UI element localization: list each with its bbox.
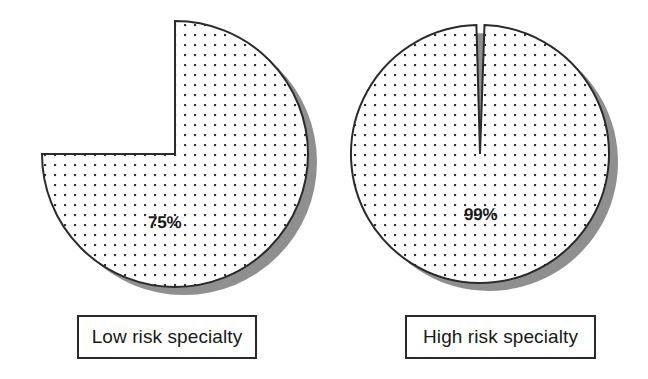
pie-low-risk-slice xyxy=(42,21,308,287)
pie-high-risk-percent-label: 99% xyxy=(464,206,497,223)
pie-low-risk xyxy=(42,21,317,295)
pie-chart-figure: 75% 99% Low risk specialty High risk spe… xyxy=(0,0,648,379)
caption-label-high-risk: High risk specialty xyxy=(423,326,578,348)
pie-low-risk-percent-label: 75% xyxy=(148,214,181,231)
pie-high-risk xyxy=(351,25,618,291)
caption-box-low-risk: Low risk specialty xyxy=(77,315,257,359)
caption-box-high-risk: High risk specialty xyxy=(405,315,596,359)
caption-label-low-risk: Low risk specialty xyxy=(92,326,243,348)
